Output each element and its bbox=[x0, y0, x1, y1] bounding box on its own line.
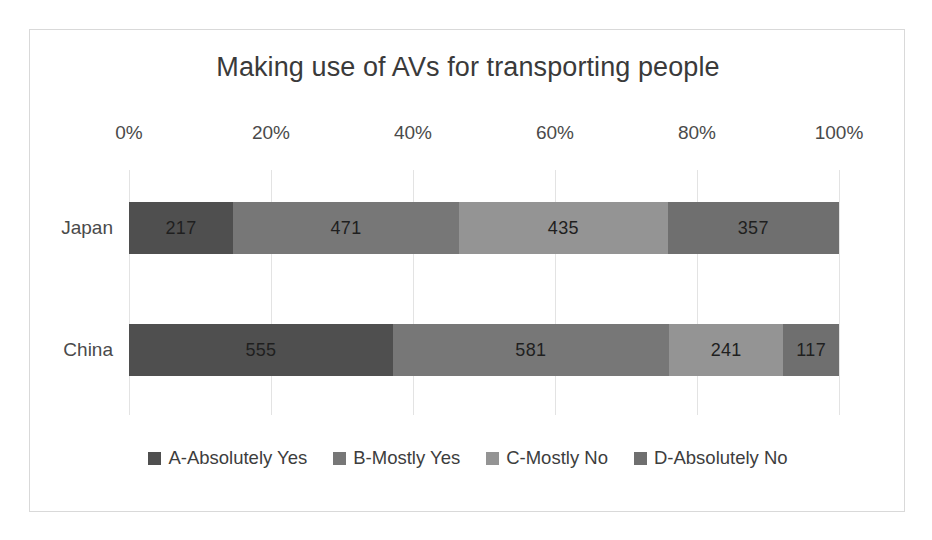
bar-segment-china-b[interactable]: 581 bbox=[393, 324, 669, 376]
bar-value-label: 357 bbox=[738, 218, 769, 239]
plot-area: Japan217471435357China555581241117 bbox=[129, 170, 839, 415]
legend-label: B-Mostly Yes bbox=[353, 447, 460, 469]
chart-container: Making use of AVs for transporting peopl… bbox=[29, 29, 905, 512]
x-axis-tick-0: 0% bbox=[115, 122, 142, 144]
stacked-bar-japan: 217471435357 bbox=[129, 202, 839, 254]
legend-label: D-Absolutely No bbox=[654, 447, 788, 469]
gridline-100 bbox=[839, 170, 840, 415]
x-axis-tick-40: 40% bbox=[394, 122, 432, 144]
x-axis-tick-80: 80% bbox=[678, 122, 716, 144]
bar-value-label: 471 bbox=[331, 218, 362, 239]
bar-segment-japan-d[interactable]: 357 bbox=[668, 202, 839, 254]
bar-segment-japan-c[interactable]: 435 bbox=[459, 202, 668, 254]
legend-item-b[interactable]: B-Mostly Yes bbox=[333, 447, 460, 469]
x-axis-tick-20: 20% bbox=[252, 122, 290, 144]
stacked-bar-china: 555581241117 bbox=[129, 324, 839, 376]
x-axis-tick-100: 100% bbox=[815, 122, 864, 144]
x-axis-tick-60: 60% bbox=[536, 122, 574, 144]
x-axis-tick-labels: 0%20%40%60%80%100% bbox=[30, 122, 906, 148]
bar-segment-china-a[interactable]: 555 bbox=[129, 324, 393, 376]
legend-item-d[interactable]: D-Absolutely No bbox=[634, 447, 788, 469]
bar-value-label: 117 bbox=[796, 340, 826, 361]
chart-title: Making use of AVs for transporting peopl… bbox=[30, 52, 906, 83]
bar-value-label: 217 bbox=[166, 218, 197, 239]
bar-value-label: 241 bbox=[711, 340, 742, 361]
legend-swatch-b bbox=[333, 452, 346, 465]
bar-value-label: 435 bbox=[548, 218, 579, 239]
bar-segment-china-c[interactable]: 241 bbox=[669, 324, 784, 376]
category-label-japan: Japan bbox=[61, 217, 113, 239]
legend-swatch-d bbox=[634, 452, 647, 465]
chart-legend: A-Absolutely YesB-Mostly YesC-Mostly NoD… bbox=[30, 447, 906, 469]
category-label-china: China bbox=[63, 339, 113, 361]
bar-segment-japan-b[interactable]: 471 bbox=[233, 202, 459, 254]
legend-label: A-Absolutely Yes bbox=[168, 447, 307, 469]
legend-swatch-c bbox=[486, 452, 499, 465]
legend-swatch-a bbox=[148, 452, 161, 465]
legend-item-c[interactable]: C-Mostly No bbox=[486, 447, 608, 469]
bar-row-japan: Japan217471435357 bbox=[129, 202, 839, 254]
bar-row-china: China555581241117 bbox=[129, 324, 839, 376]
bar-segment-japan-a[interactable]: 217 bbox=[129, 202, 233, 254]
legend-label: C-Mostly No bbox=[506, 447, 608, 469]
legend-item-a[interactable]: A-Absolutely Yes bbox=[148, 447, 307, 469]
bar-value-label: 555 bbox=[245, 340, 276, 361]
bar-segment-china-d[interactable]: 117 bbox=[783, 324, 839, 376]
bar-value-label: 581 bbox=[515, 340, 546, 361]
